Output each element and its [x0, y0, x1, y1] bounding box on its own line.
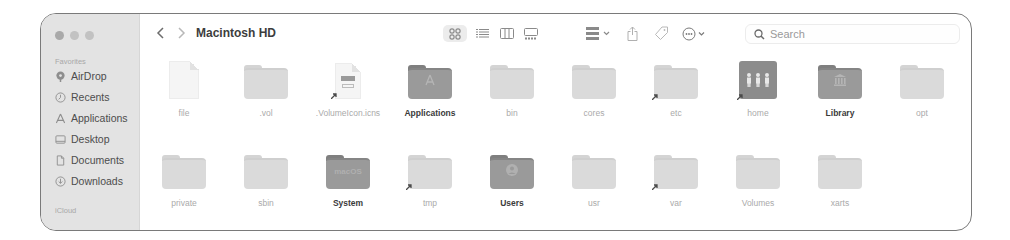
- close-button[interactable]: [55, 31, 64, 40]
- folder-icon: [572, 65, 616, 99]
- folder-icon: [572, 155, 616, 189]
- sidebar-item-label: Desktop: [71, 133, 110, 145]
- main-content: Macintosh HD: [140, 14, 971, 230]
- back-button[interactable]: [154, 25, 168, 41]
- chevron-left-icon: [154, 25, 168, 41]
- system-folder-icon: macOS: [326, 155, 370, 189]
- window-controls: [55, 31, 94, 40]
- file-item[interactable]: .vol: [226, 59, 306, 118]
- tag-button[interactable]: [652, 25, 670, 42]
- gallery-view-icon: [524, 28, 538, 40]
- file-item[interactable]: cores: [554, 59, 634, 118]
- list-view-button[interactable]: [472, 25, 492, 42]
- sidebar-item-recents[interactable]: Recents: [55, 90, 110, 104]
- search-input[interactable]: [770, 28, 940, 40]
- file-item[interactable]: home: [718, 59, 798, 118]
- sidebar-item-airdrop[interactable]: AirDrop: [55, 69, 107, 83]
- file-item[interactable]: Users: [472, 149, 552, 208]
- group-icon: [586, 27, 614, 40]
- search-icon: [754, 29, 765, 40]
- file-item[interactable]: var: [636, 149, 716, 208]
- icon-view-icon: [449, 28, 461, 40]
- sidebar-item-label: Downloads: [71, 175, 123, 187]
- sidebar-item-documents[interactable]: Documents: [55, 153, 124, 167]
- list-view-icon: [476, 28, 489, 39]
- file-item[interactable]: etc: [636, 59, 716, 118]
- search-field[interactable]: [745, 24, 960, 44]
- applications-icon: [55, 113, 66, 124]
- file-item[interactable]: opt: [882, 59, 962, 118]
- file-item[interactable]: macOS System: [308, 149, 388, 208]
- library-folder-icon: [818, 65, 862, 99]
- document-file-icon: [169, 61, 199, 99]
- file-item[interactable]: sbin: [226, 149, 306, 208]
- sidebar-item-label: Recents: [71, 91, 110, 103]
- sidebar-section-favorites: Favorites: [55, 57, 86, 66]
- share-icon: [627, 26, 638, 41]
- folder-alias-icon: [654, 65, 698, 99]
- forward-button[interactable]: [174, 25, 188, 41]
- folder-icon: [736, 155, 780, 189]
- folder-alias-icon: [408, 155, 452, 189]
- sidebar-item-desktop[interactable]: Desktop: [55, 132, 110, 146]
- file-item[interactable]: bin: [472, 59, 552, 118]
- column-view-button[interactable]: [497, 25, 517, 42]
- file-item[interactable]: Library: [800, 59, 880, 118]
- file-item[interactable]: .VolumeIcon.icns: [308, 59, 388, 118]
- sidebar-item-downloads[interactable]: Downloads: [55, 174, 123, 188]
- document-icon: [55, 155, 66, 166]
- icns-file-icon: [335, 63, 361, 99]
- sidebar-section-icloud: iCloud: [55, 206, 76, 215]
- folder-icon: [490, 65, 534, 99]
- tag-icon: [654, 26, 669, 41]
- sidebar: Favorites AirDrop Recents Applications D…: [41, 14, 140, 230]
- share-button[interactable]: [624, 25, 640, 42]
- desktop-icon: [55, 134, 66, 145]
- home-icon: [739, 61, 777, 99]
- icon-view-button[interactable]: [443, 25, 467, 42]
- file-item[interactable]: xarts: [800, 149, 880, 208]
- file-item[interactable]: file: [144, 59, 224, 118]
- folder-icon: [818, 155, 862, 189]
- users-folder-icon: [490, 155, 534, 189]
- sidebar-item-applications[interactable]: Applications: [55, 111, 128, 125]
- applications-folder-icon: [408, 65, 452, 99]
- gallery-view-button[interactable]: [521, 25, 541, 42]
- file-item[interactable]: Volumes: [718, 149, 798, 208]
- column-view-icon: [500, 28, 514, 39]
- chevron-right-icon: [174, 25, 188, 41]
- file-item[interactable]: Applications: [390, 59, 470, 118]
- alias-arrow-icon: [331, 93, 337, 99]
- minimize-button[interactable]: [70, 31, 79, 40]
- window-title: Macintosh HD: [196, 26, 276, 40]
- airdrop-icon: [55, 71, 66, 82]
- folder-icon: [162, 155, 206, 189]
- folder-alias-icon: [654, 155, 698, 189]
- file-item[interactable]: private: [144, 149, 224, 208]
- ellipsis-circle-icon: [682, 27, 710, 41]
- group-by-button[interactable]: [586, 25, 614, 42]
- finder-window: Favorites AirDrop Recents Applications D…: [40, 13, 972, 231]
- zoom-button[interactable]: [85, 31, 94, 40]
- toolbar: Macintosh HD: [140, 14, 971, 54]
- sidebar-item-label: Documents: [71, 154, 124, 166]
- download-icon: [55, 176, 66, 187]
- folder-icon: [244, 65, 288, 99]
- clock-icon: [55, 92, 66, 103]
- file-item[interactable]: tmp: [390, 149, 470, 208]
- more-actions-button[interactable]: [682, 25, 710, 42]
- folder-icon: [900, 65, 944, 99]
- sidebar-item-label: Applications: [71, 112, 128, 124]
- file-item[interactable]: usr: [554, 149, 634, 208]
- sidebar-item-label: AirDrop: [71, 70, 107, 82]
- folder-icon: [244, 155, 288, 189]
